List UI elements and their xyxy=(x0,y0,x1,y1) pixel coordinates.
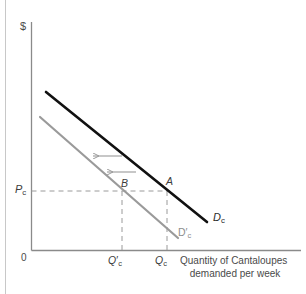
point-label-a: A xyxy=(166,176,173,187)
price-tick-label: Pc xyxy=(15,184,26,197)
demand-original-base: D xyxy=(213,211,221,223)
quantity-original-base: Q xyxy=(155,254,163,266)
quantity-new-subscript: c xyxy=(118,259,122,268)
economics-demand-shift-figure: $ 0 Pc Q′c Qc A B Dc D′c Quantity of Can… xyxy=(0,0,306,294)
origin-label: 0 xyxy=(21,253,27,263)
demand-curve-original-label: Dc xyxy=(213,212,225,225)
x-axis-caption-line1: Quantity of Cantaloupes xyxy=(180,255,287,266)
quantity-new-base: Q xyxy=(108,254,116,266)
y-axis-label: $ xyxy=(20,21,26,32)
demand-curve-shifted-label: D′c xyxy=(178,227,191,239)
x-axis-caption-line2: demanded per week xyxy=(180,268,304,281)
demand-curve-shifted xyxy=(40,117,178,238)
demand-original-subscript: c xyxy=(221,216,225,225)
price-tick-subscript: c xyxy=(22,188,26,197)
point-label-b: B xyxy=(121,178,128,189)
quantity-original-subscript: c xyxy=(163,259,167,268)
x-axis-caption: Quantity of Cantaloupes demanded per wee… xyxy=(180,255,304,280)
demand-shifted-subscript: c xyxy=(188,231,192,240)
demand-shifted-base: D xyxy=(178,226,186,238)
quantity-new-tick-label: Q′c xyxy=(108,255,122,267)
quantity-original-tick-label: Qc xyxy=(155,255,167,267)
figure-canvas xyxy=(0,0,306,294)
demand-curve-original xyxy=(46,92,207,222)
